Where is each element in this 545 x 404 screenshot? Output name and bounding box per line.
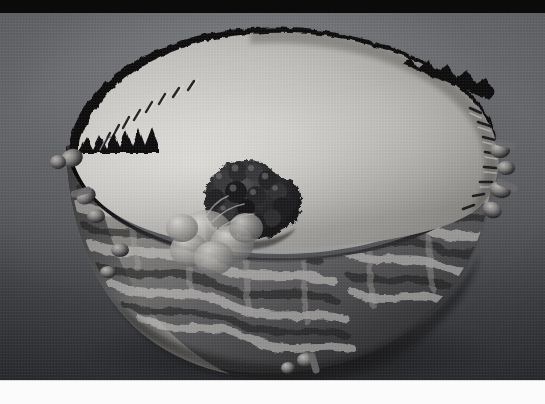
cell-nucleus-illustration <box>0 0 545 404</box>
letterbox-bottom-bar <box>0 381 545 404</box>
illustration-stage <box>0 0 545 404</box>
letterbox-top-bar <box>0 0 545 13</box>
letterbox-divider <box>0 380 545 381</box>
